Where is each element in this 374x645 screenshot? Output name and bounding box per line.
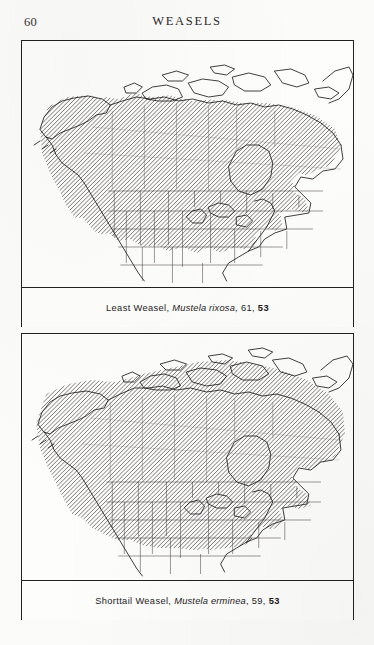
figure-caption-1: Least Weasel, Mustela rixosa, 61, 53 <box>106 303 269 313</box>
caption-sep-1: , <box>235 303 238 313</box>
figure-plate-least-weasel: Least Weasel, Mustela rixosa, 61, 53 <box>21 40 354 327</box>
running-head: 60 WEASELS <box>0 14 374 34</box>
book-page: 60 WEASELS <box>0 0 374 645</box>
caption-scientific-name: Mustela erminea <box>174 596 246 606</box>
map-canvas-2 <box>22 334 353 580</box>
caption-common-name: Shorttail Weasel, <box>95 596 171 606</box>
shorttail-weasel-range-map <box>22 334 353 580</box>
caption-sep-1: , <box>246 596 249 606</box>
running-head-title: WEASELS <box>0 14 374 29</box>
caption-page-ref: 59 <box>252 596 263 606</box>
figure-plate-shorttail-weasel: Shorttail Weasel, Mustela erminea, 59, 5… <box>21 333 354 620</box>
caption-bar-1: Least Weasel, Mustela rixosa, 61, 53 <box>22 287 353 327</box>
caption-bar-2: Shorttail Weasel, Mustela erminea, 59, 5… <box>22 580 353 620</box>
figure-caption-2: Shorttail Weasel, Mustela erminea, 59, 5… <box>95 596 280 606</box>
caption-plate-ref: 53 <box>258 303 269 313</box>
caption-scientific-name: Mustela rixosa <box>172 303 235 313</box>
caption-sep-2: , <box>252 303 255 313</box>
caption-page-ref: 61 <box>241 303 252 313</box>
least-weasel-range-map <box>22 41 353 287</box>
caption-common-name: Least Weasel, <box>106 303 169 313</box>
caption-sep-2: , <box>263 596 266 606</box>
map-canvas-1 <box>22 41 353 287</box>
caption-plate-ref: 53 <box>269 596 280 606</box>
